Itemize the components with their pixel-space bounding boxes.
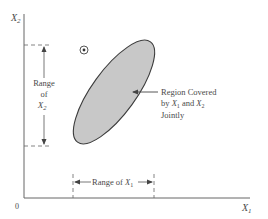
y-axis-label: X2: [10, 12, 21, 25]
range-x2-label-line2: of: [40, 89, 47, 99]
range-x2-label-line1: Range: [33, 78, 55, 88]
region-label-line2: by X1 and X2: [161, 98, 205, 109]
joint-range-diagram: X2 0 X1 Range of X2 Region Covered by X1…: [0, 0, 268, 219]
circled-point-icon: [80, 46, 88, 54]
region-annotation: Region Covered by X1 and X2 Jointly: [133, 87, 217, 120]
range-x1-indicator: Range of X1: [73, 174, 154, 198]
x-axis-label: X1: [241, 202, 252, 215]
region-label-line1: Region Covered: [161, 87, 217, 97]
range-x2-indicator: Range of X2: [24, 45, 55, 146]
range-x1-label: Range of X1: [92, 177, 133, 188]
origin-label: 0: [15, 202, 19, 211]
region-label-line3: Jointly: [161, 110, 185, 120]
range-x2-label-line3: X2: [37, 100, 48, 111]
